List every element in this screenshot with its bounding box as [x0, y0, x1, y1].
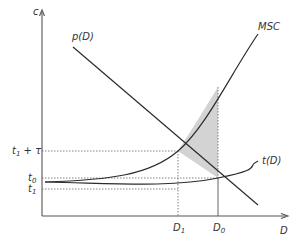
curve-msc	[45, 34, 258, 182]
ytick-t1-plus-tau: t1 + τ	[12, 145, 42, 158]
dwl-diagram: p(D) MSC t(D) c D t1 + τ t0 t1 D1 D0	[0, 0, 301, 248]
xtick-d0: D0	[213, 222, 226, 235]
curve-p-of-d	[73, 47, 258, 205]
label-t-of-d: t(D)	[262, 155, 281, 166]
y-axis-label: c	[33, 6, 39, 17]
x-axis-label: D	[280, 225, 288, 236]
label-p-of-d: p(D)	[71, 31, 94, 42]
label-msc: MSC	[258, 21, 280, 32]
xtick-d1: D1	[173, 222, 185, 235]
shaded-dwl-region	[178, 87, 218, 178]
